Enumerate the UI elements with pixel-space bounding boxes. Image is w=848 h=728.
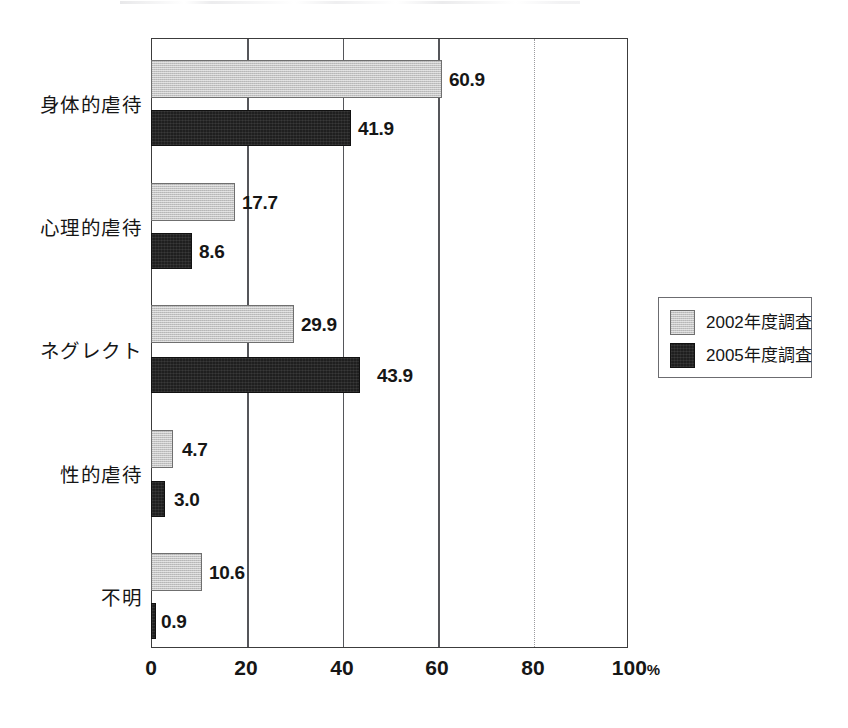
gridline-80 — [534, 39, 535, 647]
horizontal-bar-chart: 身体的虐待 心理的虐待 ネグレクト 性的虐待 不明 60.9 41.9 17.7… — [0, 0, 848, 728]
bar-2005-neglect — [151, 357, 360, 393]
category-label-neglect: ネグレクト — [40, 342, 143, 362]
xtick-label-60: 60 — [425, 656, 448, 679]
legend-label-2005: 2005年度調査 — [706, 347, 812, 364]
legend-item-2005[interactable]: 2005年度調査 — [670, 342, 812, 368]
bar-value-2002-sexual-abuse: 4.7 — [182, 440, 208, 459]
bar-2005-psychological-abuse — [151, 233, 192, 269]
legend-item-2002[interactable]: 2002年度調査 — [670, 309, 812, 335]
bar-2005-unknown — [151, 603, 156, 639]
bar-2005-sexual-abuse — [151, 481, 165, 517]
xtick-label-40: 40 — [330, 656, 353, 679]
xtick-0: 0 — [145, 657, 157, 678]
xtick-20: 20 — [234, 657, 257, 678]
xtick-percent-sign: % — [647, 661, 660, 678]
gridline-60 — [438, 39, 439, 647]
bar-value-2005-unknown: 0.9 — [161, 612, 187, 631]
category-label-unknown: 不明 — [101, 589, 142, 609]
legend-swatch-2002-icon — [670, 310, 695, 335]
bar-value-2002-physical-abuse: 60.9 — [449, 70, 485, 89]
xtick-label-20: 20 — [234, 656, 257, 679]
category-label-psychological-abuse: 心理的虐待 — [40, 219, 143, 239]
category-label-physical-abuse: 身体的虐待 — [40, 96, 143, 116]
bar-value-2005-neglect: 43.9 — [377, 366, 413, 385]
bar-value-2005-sexual-abuse: 3.0 — [174, 490, 200, 509]
category-label-sexual-abuse: 性的虐待 — [60, 466, 142, 486]
legend-swatch-2005-icon — [670, 343, 695, 368]
bar-value-2002-neglect: 29.9 — [301, 315, 337, 334]
bar-value-2005-physical-abuse: 41.9 — [358, 119, 394, 138]
xtick-100: 100% — [612, 657, 660, 678]
xtick-label-100: 100 — [612, 656, 647, 679]
scan-artifact — [120, 1, 580, 4]
bar-value-2005-psychological-abuse: 8.6 — [199, 242, 225, 261]
xtick-80: 80 — [521, 657, 544, 678]
legend-label-2002: 2002年度調査 — [706, 314, 812, 331]
bar-2005-physical-abuse — [151, 110, 351, 146]
bar-2002-neglect — [151, 305, 294, 343]
bar-2002-sexual-abuse — [151, 430, 173, 468]
bar-2002-unknown — [151, 553, 202, 591]
xtick-label-80: 80 — [521, 656, 544, 679]
bar-2002-physical-abuse — [151, 60, 442, 98]
xtick-60: 60 — [425, 657, 448, 678]
bar-value-2002-unknown: 10.6 — [209, 563, 245, 582]
xtick-label-0: 0 — [145, 656, 157, 679]
bar-2002-psychological-abuse — [151, 183, 235, 221]
legend: 2002年度調査 2005年度調査 — [658, 297, 812, 378]
xtick-40: 40 — [330, 657, 353, 678]
bar-value-2002-psychological-abuse: 17.7 — [242, 193, 278, 212]
